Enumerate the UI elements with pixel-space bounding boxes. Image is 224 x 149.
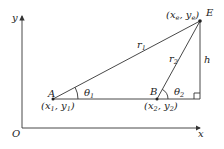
point-a-coords: (x1, y1) <box>41 100 75 113</box>
point-a-label: A <box>47 88 55 99</box>
origin-label: O <box>12 128 20 139</box>
angle-arc-theta2 <box>162 89 168 99</box>
point-e-label: E <box>205 7 214 18</box>
point-b-coords: (x2, y2) <box>144 100 178 113</box>
segment-r2-label: r2 <box>169 53 178 66</box>
angle-theta2-label: θ2 <box>174 86 184 99</box>
right-angle-marker <box>194 93 200 99</box>
y-axis-label: y <box>11 12 18 23</box>
point-b-label: B <box>149 86 157 97</box>
point-e-coords: (xe, ye) <box>166 9 199 22</box>
angle-theta1-label: θ1 <box>84 87 94 100</box>
segment-r1-label: r1 <box>137 39 146 52</box>
angle-arc-theta1 <box>75 87 78 99</box>
x-axis-label: x <box>198 128 204 139</box>
segment-h-label: h <box>204 54 210 65</box>
geometry-diagram: y x O A B E (x1, y1) (x2, y2) (xe, ye) r… <box>0 0 224 149</box>
